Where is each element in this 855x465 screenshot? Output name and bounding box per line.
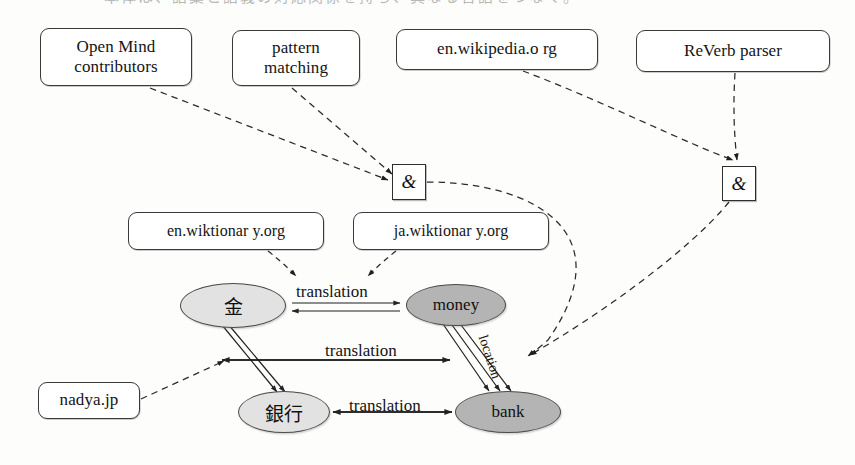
source-label: en.wiktionar y.org [167,222,285,241]
node-label: money [433,295,479,315]
edge-nadya-to-kanebank [141,361,224,399]
edge-label-text: translation [325,341,397,360]
source-label: ReVerb parser [684,41,782,61]
source-label-line-2: matching [264,58,328,78]
edge-ampleft-to-location [427,182,576,356]
node-label: 銀行 [265,399,303,426]
edge-jawiktionary-to-money [368,251,396,276]
source-label: nadya.jp [60,390,119,410]
source-label: ja.wiktionar y.org [394,222,509,241]
concept-node-bank[interactable]: bank [455,391,561,433]
source-box-open-mind[interactable]: Open Mind contributors [40,28,192,86]
edge-label-location-money-bank: location [475,333,504,381]
edge-label-translation-ginkou-bank: translation [349,396,421,416]
source-label-line-2: contributors [74,57,157,77]
source-box-nadya-jp[interactable]: nadya.jp [38,382,140,419]
edge-label-text: translation [296,282,368,301]
cropped-caption-text: 本体は、語彙と語義の対応関係を持ち、異なる言語をつなぐ。 [104,0,855,4]
junction-box-ampersand-left[interactable]: & [392,164,426,200]
source-box-en-wiktionary[interactable]: en.wiktionar y.org [128,212,324,250]
edge-label-translation-kane-money: translation [296,282,368,302]
rel-kane-ginkou-a [222,325,277,392]
node-label: bank [491,402,524,422]
diagram-canvas: 本体は、語彙と語義の対応関係を持ち、異なる言語をつなぐ。 [0,0,855,465]
source-label-line-1: pattern [264,38,328,58]
source-box-pattern-matching[interactable]: pattern matching [232,30,360,86]
source-box-reverb-parser[interactable]: ReVerb parser [636,30,830,72]
node-label: 金 [224,292,243,319]
rel-kane-ginkou-b [228,324,285,392]
source-box-ja-wiktionary[interactable]: ja.wiktionar y.org [353,212,549,250]
edge-label-translation-kane-bank: translation [325,341,397,361]
source-label: en.wikipedia.o rg [437,39,557,59]
concept-node-ginkou[interactable]: 銀行 [238,391,330,433]
junction-label: & [402,171,417,193]
source-box-en-wikipedia[interactable]: en.wikipedia.o rg [396,29,598,70]
edge-label-text: translation [349,396,421,415]
source-label-line-1: Open Mind [74,37,157,57]
junction-box-ampersand-right[interactable]: & [722,166,756,201]
edge-label-text: location [476,333,504,381]
edge-reverb-to-amp [734,73,737,160]
concept-node-kane[interactable]: 金 [180,283,286,328]
edge-wikipedia-to-amp [523,71,733,160]
concept-node-money[interactable]: money [406,284,506,326]
edge-enwiktionary-to-kane [268,251,296,276]
edge-pattern-to-amp [292,88,392,174]
cropped-caption-strip: 本体は、語彙と語義の対応関係を持ち、異なる言語をつなぐ。 [0,0,855,13]
junction-label: & [732,173,747,195]
edge-openmind-to-amp [150,88,388,180]
edge-ampright-to-location [530,202,729,355]
